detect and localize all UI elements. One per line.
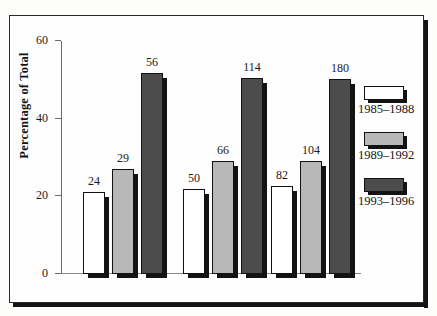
legend-label: 1989–1992 [358, 149, 424, 163]
figure-root: Percentage of Total 0204060 242956Articl… [0, 0, 437, 316]
bar-value-label: 82 [259, 169, 305, 181]
bar-group-participants: 5066114 [183, 40, 270, 274]
frame-shadow-bottom [13, 303, 428, 307]
bar-articles-1989-1992[interactable] [112, 169, 134, 274]
legend-label: 1993–1996 [358, 195, 424, 209]
legend-item-1993-1996[interactable]: 1993–1996 [358, 178, 424, 209]
bar-group-outcomes: 82104180 [271, 40, 358, 274]
bar-value-label: 24 [71, 175, 117, 187]
y-tick-label-40: 40 [22, 112, 48, 124]
y-tick-label-20: 20 [22, 189, 48, 201]
bar-articles-1985-1988[interactable] [83, 192, 105, 274]
bar-value-label: 66 [200, 144, 246, 156]
legend-label: 1985–1988 [358, 103, 424, 117]
bar-value-label: 56 [129, 56, 175, 68]
white-swatch [364, 86, 404, 100]
bar-value-label: 50 [171, 172, 217, 184]
bar-outcomes-1989-1992[interactable] [300, 161, 322, 274]
light-gray-swatch [364, 132, 404, 146]
bar-value-label: 180 [317, 62, 363, 74]
bar-articles-1993-1996[interactable] [141, 73, 163, 274]
bar-value-label: 114 [229, 61, 275, 73]
bar-participants-1985-1988[interactable] [183, 189, 205, 274]
frame-shadow-right [424, 20, 428, 308]
bar-value-label: 29 [100, 152, 146, 164]
y-tick-label-60: 60 [22, 34, 48, 46]
y-tick-label-0: 0 [22, 267, 48, 279]
legend-item-1989-1992[interactable]: 1989–1992 [358, 132, 424, 163]
dark-gray-swatch [364, 178, 404, 192]
bar-value-label: 104 [288, 144, 334, 156]
y-axis-ticks: 0204060 [0, 0, 55, 316]
chart-legend: 1985–19881989–19921993–1996 [358, 86, 424, 223]
bar-participants-1989-1992[interactable] [212, 161, 234, 274]
plot-area: 242956Articles5066114Participants8210418… [61, 40, 349, 274]
bar-group-articles: 242956 [83, 40, 170, 274]
legend-item-1985-1988[interactable]: 1985–1988 [358, 86, 424, 117]
bar-outcomes-1993-1996[interactable] [329, 79, 351, 274]
bar-outcomes-1985-1988[interactable] [271, 186, 293, 274]
